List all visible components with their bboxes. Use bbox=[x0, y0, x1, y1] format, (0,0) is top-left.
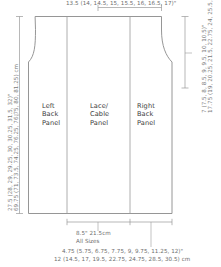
right-dimension-metric: 17.75 (19, 20.25, 21.5, 22.75, 24, 25.5,… bbox=[207, 0, 214, 113]
panel-label-left-back: Left Back Panel bbox=[42, 102, 60, 127]
right-dimension-line bbox=[182, 17, 193, 89]
left-dimension-metric: 69.75 (71, 73.5, 74.25, 76.25, 76.75, 80… bbox=[13, 64, 20, 211]
top-dimension-imperial: 13.5 (14, 14.5, 15, 15.5, 16, 16.5, 17)" bbox=[66, 0, 176, 7]
schematic-drawing bbox=[0, 0, 221, 267]
bottom-center-measurement: 8.5" 21.5cm bbox=[76, 230, 111, 237]
bottom-right-measurement-imperial: 4.75 (5.75, 6.75, 7.75, 9, 9.75, 11.25, … bbox=[62, 248, 183, 255]
bottom-right-measurement-metric: 12 (14.5, 17, 19.5, 22.75, 24.75, 28.5, … bbox=[54, 256, 190, 263]
bottom-center-sizes-note: All Sizes bbox=[76, 238, 100, 245]
panel-label-lace-cable: Lace/ Cable Panel bbox=[90, 102, 109, 127]
panel-label-right-back: Right Back Panel bbox=[137, 102, 155, 127]
garment-schematic-diagram: Left Back Panel Lace/ Cable Panel Right … bbox=[0, 0, 221, 267]
